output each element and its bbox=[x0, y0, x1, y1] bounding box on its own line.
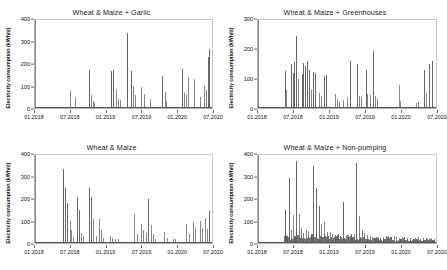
series-spikes bbox=[258, 20, 436, 108]
series-spikes bbox=[35, 155, 212, 243]
x-tick-label: 07.2019 bbox=[132, 249, 152, 255]
figure-panel-grid: Wheat & Maize + Garlic Electricity consu… bbox=[0, 0, 447, 270]
x-tick-mark bbox=[257, 245, 258, 248]
data-spike bbox=[324, 222, 325, 243]
chart-panel-top-right: Wheat & Maize + Greenhouses Electricity … bbox=[223, 0, 447, 135]
plot-area bbox=[34, 19, 213, 109]
series-spikes bbox=[258, 155, 436, 243]
data-spike bbox=[79, 210, 80, 243]
x-tick-mark bbox=[293, 110, 294, 113]
axis-bottom bbox=[35, 107, 212, 108]
data-spike bbox=[343, 202, 344, 243]
x-tick-label: 07.2018 bbox=[60, 114, 80, 120]
data-spike bbox=[432, 61, 433, 108]
data-spike bbox=[209, 49, 210, 108]
x-tick-label: 01.2020 bbox=[391, 249, 411, 255]
x-tick-label: 01.2020 bbox=[391, 114, 411, 120]
data-spike bbox=[426, 93, 427, 108]
data-spike bbox=[188, 77, 189, 108]
data-spike bbox=[319, 206, 320, 243]
data-spike bbox=[208, 57, 209, 108]
x-tick-mark bbox=[106, 245, 107, 248]
y-axis-ticks: 0100200300400 bbox=[0, 154, 34, 244]
chart-title: Wheat & Maize + Non-pumping bbox=[223, 143, 447, 152]
plot-area-wrapper bbox=[257, 19, 437, 109]
plot-area bbox=[34, 154, 213, 244]
x-tick-label: 07.2018 bbox=[283, 249, 303, 255]
data-spike bbox=[205, 218, 206, 243]
x-tick-label: 07.2020 bbox=[203, 249, 223, 255]
data-spike bbox=[182, 69, 183, 108]
data-spike bbox=[151, 225, 152, 243]
data-spike bbox=[70, 91, 71, 108]
x-tick-label: 07.2019 bbox=[355, 114, 375, 120]
x-tick-mark bbox=[365, 110, 366, 113]
data-spike bbox=[293, 73, 294, 108]
data-spike bbox=[424, 70, 425, 108]
data-spike bbox=[399, 85, 400, 108]
x-tick-label: 01.2018 bbox=[247, 114, 267, 120]
data-spike bbox=[299, 214, 300, 243]
data-spike bbox=[200, 221, 201, 243]
data-spike bbox=[367, 94, 368, 108]
data-spike bbox=[286, 90, 287, 108]
x-tick-label: 07.2018 bbox=[60, 249, 80, 255]
data-spike bbox=[113, 70, 114, 108]
data-spike bbox=[93, 219, 94, 243]
plot-area-wrapper bbox=[257, 154, 437, 244]
axis-bottom bbox=[35, 242, 212, 243]
y-tick-label: 400 bbox=[21, 151, 30, 157]
data-spike bbox=[296, 36, 297, 108]
x-tick-mark bbox=[293, 245, 294, 248]
y-tick-label: 100 bbox=[244, 76, 253, 82]
x-tick-mark bbox=[177, 245, 178, 248]
data-spike bbox=[301, 228, 302, 243]
y-tick-label: 300 bbox=[21, 174, 30, 180]
x-tick-mark bbox=[329, 245, 330, 248]
x-tick-mark bbox=[437, 110, 438, 113]
y-tick-label: 300 bbox=[21, 39, 30, 45]
data-spike bbox=[141, 87, 142, 108]
data-spike bbox=[289, 178, 290, 243]
data-spike bbox=[285, 71, 286, 108]
y-tick-label: 400 bbox=[244, 151, 253, 157]
x-tick-mark bbox=[257, 110, 258, 113]
data-spike bbox=[133, 86, 134, 108]
data-spike bbox=[186, 224, 187, 243]
data-spike bbox=[207, 229, 208, 243]
y-tick-label: 200 bbox=[244, 46, 253, 52]
axis-left bbox=[35, 155, 36, 243]
x-tick-label: 01.2019 bbox=[319, 249, 339, 255]
data-spike bbox=[99, 219, 100, 243]
y-tick-label: 300 bbox=[244, 16, 253, 22]
data-spike bbox=[204, 86, 205, 108]
x-tick-mark bbox=[329, 110, 330, 113]
data-spike bbox=[298, 79, 299, 108]
y-tick-label: 200 bbox=[244, 196, 253, 202]
data-spike bbox=[131, 71, 132, 108]
data-spike bbox=[313, 166, 314, 243]
y-tick-label: 100 bbox=[244, 219, 253, 225]
y-tick-label: 100 bbox=[21, 84, 30, 90]
data-spike bbox=[89, 188, 90, 243]
y-axis-ticks: 0100200300400 bbox=[0, 19, 34, 109]
data-spike bbox=[206, 90, 207, 108]
data-spike bbox=[316, 188, 317, 243]
data-spike bbox=[195, 228, 196, 243]
y-tick-label: 200 bbox=[21, 196, 30, 202]
data-spike bbox=[162, 76, 163, 108]
y-tick-label: 0 bbox=[250, 106, 253, 112]
chart-title: Wheat & Maize bbox=[0, 143, 223, 152]
series-spikes bbox=[35, 20, 212, 108]
x-tick-mark bbox=[141, 110, 142, 113]
y-tick-label: 0 bbox=[27, 241, 30, 247]
data-spike bbox=[209, 211, 210, 243]
x-tick-mark bbox=[34, 245, 35, 248]
chart-panel-top-left: Wheat & Maize + Garlic Electricity consu… bbox=[0, 0, 223, 135]
x-tick-label: 07.2019 bbox=[132, 114, 152, 120]
y-tick-label: 0 bbox=[250, 241, 253, 247]
x-tick-label: 01.2019 bbox=[96, 249, 116, 255]
data-spike bbox=[373, 51, 374, 108]
x-tick-label: 07.2019 bbox=[355, 249, 375, 255]
x-tick-mark bbox=[437, 245, 438, 248]
